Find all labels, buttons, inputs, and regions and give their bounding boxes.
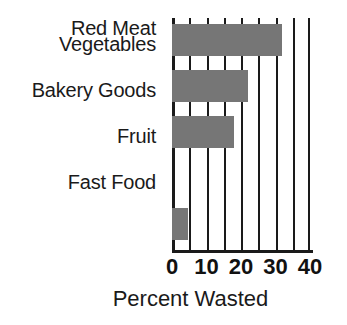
tick-label-30: 30 [263, 256, 287, 278]
gridline-35 [293, 18, 295, 253]
plot-area [172, 18, 310, 253]
tick-label-40: 40 [298, 256, 322, 278]
x-axis-title: Percent Wasted [0, 288, 347, 310]
category-axis-labels: Vegetables Bakery Goods Fruit Fast Food … [0, 18, 164, 253]
x-axis-tick-labels: 0 10 20 30 40 [172, 256, 310, 284]
x-axis-line [172, 250, 313, 253]
bar-vegetables [172, 24, 282, 56]
tick-label-10: 10 [194, 256, 218, 278]
gridline-40 [308, 18, 310, 253]
bar-fruit [172, 116, 234, 148]
bar-red-meat [172, 208, 188, 240]
category-label-bakery-goods: Bakery Goods [0, 80, 156, 100]
category-label-fruit: Fruit [0, 126, 156, 146]
category-label-fast-food: Fast Food [0, 172, 156, 192]
tick-label-0: 0 [166, 256, 178, 278]
tick-label-20: 20 [229, 256, 253, 278]
bar-chart: Vegetables Bakery Goods Fruit Fast Food … [0, 0, 347, 325]
bar-bakery-goods [172, 70, 248, 102]
category-label-red-meat: Red Meat [0, 18, 156, 38]
